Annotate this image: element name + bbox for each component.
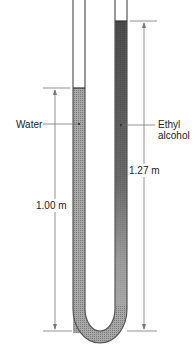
alcohol-label-line2: alcohol [158,130,190,141]
u-bend-fill [73,300,127,343]
water-height-label: 1.00 m [36,199,67,212]
alcohol-label-line1: Ethyl [158,119,180,130]
manometer-diagram: Water Ethyl alcohol 1.00 m 1.27 m [0,0,195,348]
manometer-graphic [0,0,195,348]
liquid-fill [73,21,127,343]
water-label: Water [16,119,42,130]
alcohol-height-label: 1.27 m [129,164,160,177]
